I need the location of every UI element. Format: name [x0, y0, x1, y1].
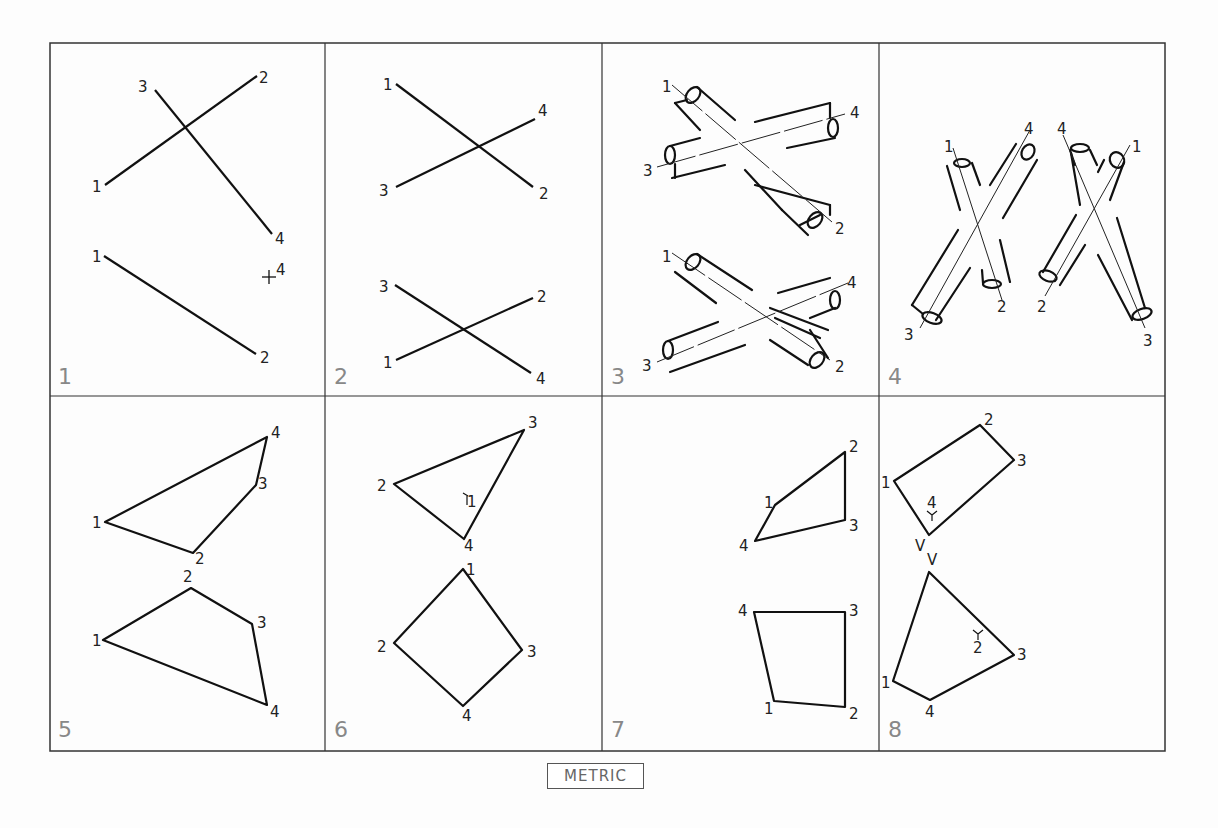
svg-text:1: 1 [1132, 138, 1142, 156]
svg-text:2: 2 [537, 288, 547, 306]
svg-text:7: 7 [611, 717, 625, 742]
svg-text:2: 2 [377, 638, 387, 656]
panel-1-labels: 3 2 1 4 1 4 2 [92, 69, 286, 367]
svg-text:4: 4 [538, 102, 548, 120]
svg-text:2: 2 [835, 220, 845, 238]
svg-text:1: 1 [662, 78, 672, 96]
svg-text:2: 2 [984, 411, 994, 429]
svg-text:3: 3 [258, 475, 268, 493]
svg-text:1: 1 [467, 493, 477, 511]
svg-text:2: 2 [334, 364, 348, 389]
svg-text:2: 2 [259, 69, 269, 87]
svg-text:3: 3 [138, 78, 148, 96]
panel-4-axes [920, 130, 1145, 328]
svg-text:3: 3 [1143, 332, 1153, 350]
svg-text:V: V [915, 537, 926, 555]
svg-text:1: 1 [881, 474, 891, 492]
svg-text:4: 4 [271, 424, 281, 442]
svg-text:3: 3 [528, 414, 538, 432]
svg-text:5: 5 [58, 717, 72, 742]
svg-text:2: 2 [997, 298, 1007, 316]
svg-text:4: 4 [276, 261, 286, 279]
panel-7-labels: 2 1 3 4 4 3 1 2 [738, 438, 859, 723]
svg-text:4: 4 [888, 364, 902, 389]
svg-text:1: 1 [466, 561, 476, 579]
svg-text:1: 1 [764, 494, 774, 512]
svg-text:4: 4 [536, 370, 546, 388]
svg-text:4: 4 [270, 703, 280, 721]
svg-text:2: 2 [849, 705, 859, 723]
svg-text:3: 3 [257, 614, 267, 632]
svg-text:3: 3 [611, 364, 625, 389]
svg-text:3: 3 [849, 602, 859, 620]
panel-4-pipes [912, 142, 1153, 326]
svg-text:2: 2 [195, 550, 205, 568]
svg-text:2: 2 [377, 477, 387, 495]
svg-text:1: 1 [944, 138, 954, 156]
svg-text:3: 3 [1017, 646, 1027, 664]
svg-text:1: 1 [383, 76, 393, 94]
panel-3-labels: 1 4 3 2 1 4 3 2 [642, 78, 860, 376]
svg-text:3: 3 [1017, 452, 1027, 470]
svg-text:3: 3 [642, 357, 652, 375]
panel-7-polygons [754, 452, 845, 707]
svg-text:1: 1 [383, 354, 393, 372]
panel-2-labels: 1 4 3 2 3 2 1 4 [379, 76, 549, 388]
svg-text:1: 1 [881, 674, 891, 692]
svg-text:3: 3 [527, 643, 537, 661]
panel-5-labels: 1 4 3 2 2 3 1 4 [92, 424, 281, 721]
svg-text:2: 2 [539, 185, 549, 203]
svg-text:4: 4 [847, 274, 857, 292]
svg-text:2: 2 [183, 568, 193, 586]
svg-text:1: 1 [92, 248, 102, 266]
worksheet-drawing: 1 2 3 4 5 6 7 8 3 2 1 4 1 4 2 1 4 3 2 3 … [0, 0, 1218, 828]
svg-text:4: 4 [925, 703, 935, 721]
svg-text:4: 4 [850, 104, 860, 122]
panel-2 [395, 84, 535, 373]
svg-text:4: 4 [1024, 120, 1034, 138]
panel-3-pipes [663, 84, 840, 372]
svg-text:4: 4 [462, 707, 472, 725]
svg-text:8: 8 [888, 717, 902, 742]
panel-6-labels: 3 2 1 4 1 2 3 4 [377, 414, 538, 725]
svg-text:3: 3 [643, 162, 653, 180]
panel-6-polygons [394, 430, 524, 706]
panel-4-labels: 1 4 3 2 4 1 2 3 [904, 120, 1153, 350]
svg-text:4: 4 [1057, 120, 1067, 138]
panel-numbers: 1 2 3 4 5 6 7 8 [58, 364, 902, 742]
svg-text:2: 2 [835, 358, 845, 376]
svg-text:1: 1 [92, 632, 102, 650]
svg-text:4: 4 [275, 230, 285, 248]
svg-text:1: 1 [92, 178, 102, 196]
svg-text:4: 4 [927, 494, 937, 512]
svg-text:2: 2 [849, 438, 859, 456]
svg-text:3: 3 [379, 278, 389, 296]
svg-text:V: V [927, 551, 938, 569]
svg-text:4: 4 [738, 602, 748, 620]
panel-1 [104, 76, 276, 354]
metric-badge: METRIC [547, 763, 644, 789]
svg-text:3: 3 [904, 326, 914, 344]
svg-text:4: 4 [464, 537, 474, 555]
panel-grid [50, 43, 1165, 751]
svg-text:1: 1 [92, 514, 102, 532]
panel-8-polygons [893, 425, 1014, 700]
svg-text:2: 2 [260, 349, 270, 367]
svg-text:2: 2 [973, 639, 983, 657]
svg-text:6: 6 [334, 717, 348, 742]
svg-text:2: 2 [1037, 298, 1047, 316]
svg-text:1: 1 [764, 700, 774, 718]
svg-text:3: 3 [379, 182, 389, 200]
panel-8-labels: 2 3 1 4 V V 2 3 1 4 [881, 411, 1027, 721]
svg-text:4: 4 [739, 537, 749, 555]
svg-text:1: 1 [662, 248, 672, 266]
svg-text:3: 3 [849, 517, 859, 535]
svg-text:1: 1 [58, 364, 72, 389]
